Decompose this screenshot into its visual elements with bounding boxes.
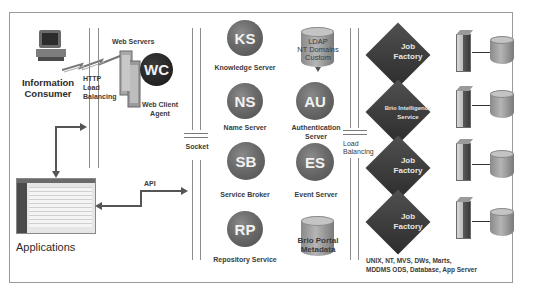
brio-intelligence-label-2: Service: [378, 112, 438, 123]
socket-label: Socket: [184, 143, 210, 151]
name-server-abbr: NS: [235, 93, 256, 110]
event-server-node[interactable]: ES: [296, 143, 334, 181]
load-balancing-label-1: Load: [343, 140, 359, 148]
api-connector-right: [140, 190, 182, 192]
lb-line-upper-left: [350, 28, 351, 128]
balancing-label: Balancing: [83, 93, 116, 101]
name-server-node[interactable]: NS: [227, 83, 263, 119]
knowledge-server-label: Knowledge Server: [213, 64, 277, 72]
server-db-link-4: [472, 221, 490, 222]
load-label: Load: [83, 84, 100, 92]
socket-line-upper-left: [192, 28, 193, 130]
database-icon-3: [490, 150, 514, 178]
applications-label: Applications: [16, 243, 75, 251]
lb-bar-1: [343, 130, 367, 131]
socket-line-lower-right: [200, 160, 201, 260]
repository-service-node[interactable]: RP: [227, 211, 263, 247]
information-consumer-label-1: Information: [18, 79, 78, 87]
server-db-link-3: [472, 164, 490, 165]
web-client-label-2: Agent: [140, 110, 180, 118]
repository-service-abbr: RP: [235, 221, 256, 238]
job-factory-1-label-2: Factory: [378, 51, 438, 62]
web-client-node[interactable]: WC: [140, 53, 173, 86]
portal-metadata-label-2: Metadata: [290, 246, 346, 254]
knowledge-server-node[interactable]: KS: [227, 20, 263, 56]
database-icon-4: [490, 208, 514, 236]
socket-line-upper-right: [200, 28, 201, 130]
socket-bar-2: [184, 137, 208, 138]
data-sources-label-2: MDDMS ODS, Database, App Server: [366, 266, 477, 274]
job-factory-3-label-2: Factory: [378, 165, 438, 176]
event-server-abbr: ES: [305, 154, 325, 171]
lb-line-lower-right: [358, 158, 359, 260]
service-broker-node[interactable]: SB: [227, 142, 265, 180]
arrow-down-icon: [315, 67, 321, 72]
knowledge-server-abbr: KS: [235, 30, 256, 47]
web-servers-label: Web Servers: [112, 38, 154, 46]
arrow-right-icon: [80, 123, 87, 131]
repository-service-label: Repository Service: [209, 256, 281, 264]
authentication-server-abbr: AU: [304, 93, 326, 110]
socket-bar-1: [184, 133, 208, 134]
job-factory-4-label-2: Factory: [378, 221, 438, 232]
arrow-right-icon: [181, 187, 188, 195]
api-label: API: [144, 180, 156, 188]
portal-metadata-label-1: Brio Portal: [290, 237, 346, 245]
web-client-label-1: Web Client: [140, 101, 180, 109]
network-link-icon: [62, 54, 122, 74]
server-db-link-2: [472, 105, 490, 106]
lb-bar-2: [343, 134, 367, 135]
application-window-icon[interactable]: [16, 178, 96, 234]
web-client-abbr: WC: [144, 61, 169, 78]
http-label: HTTP: [83, 75, 101, 83]
app-to-web-connector-vertical: [55, 126, 57, 174]
information-consumer-label-2: Consumer: [18, 90, 78, 98]
app-to-web-connector-horizontal: [55, 126, 81, 128]
authentication-server-label-2: Server: [288, 133, 344, 141]
load-balancing-label-2: Balancing: [343, 148, 374, 156]
authentication-server-node[interactable]: AU: [296, 82, 334, 120]
server-icon-3: [456, 143, 471, 181]
ldap-label-3: Custom: [290, 54, 346, 62]
lb-line-upper-right: [358, 28, 359, 128]
service-broker-abbr: SB: [236, 153, 257, 170]
server-tower-icon: [118, 47, 144, 109]
server-icon-1: [456, 34, 471, 72]
server-icon-4: [456, 201, 471, 239]
event-server-label: Event Server: [288, 191, 344, 199]
name-server-label: Name Server: [213, 124, 277, 132]
service-broker-label: Service Broker: [213, 191, 277, 199]
database-icon-1: [490, 36, 514, 64]
api-connector-vertical: [140, 190, 142, 207]
arrow-down-icon: [52, 171, 60, 178]
server-db-link-1: [472, 52, 490, 53]
socket-line-lower-left: [192, 160, 193, 260]
api-connector-left: [102, 205, 142, 207]
authentication-server-label-1: Authentication: [288, 124, 344, 132]
server-icon-2: [456, 90, 471, 128]
database-icon-2: [490, 90, 514, 118]
arrow-left-icon: [95, 202, 102, 210]
lb-line-lower-left: [350, 158, 351, 260]
data-sources-label-1: UNIX, NT, MVS, DWs, Marts,: [366, 257, 452, 265]
